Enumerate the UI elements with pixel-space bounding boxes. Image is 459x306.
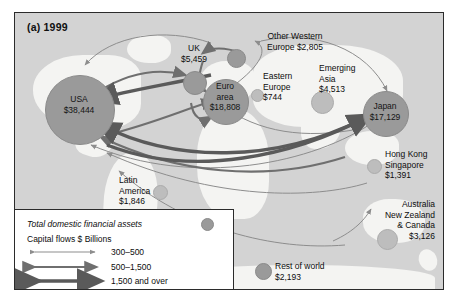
bubble-rest-of-world [255,263,272,280]
region-label-latin-america: Latin America $1,846 [119,175,173,207]
region-label-other-western-europe: Other Western Europe $2,805 [241,31,349,52]
region-label-japan: Japan $17,129 [361,101,409,122]
region-label-australia-nz-canada: Australia New Zealand & Canada $3,126 [323,199,435,241]
figure-panel: (a) 1999 [14,12,444,290]
region-label-rest-of-world: Rest of world $2,193 [275,261,365,282]
region-label-hong-kong-singapore: Hong Kong Singapore $1,391 [385,149,444,181]
region-label-emerging-asia: Emerging Asia $4,513 [319,63,381,95]
region-label-usa: USA $38,444 [45,94,113,115]
legend-row-label-2: 1,500 and over [111,276,168,286]
legend-row-label-1: 500–1,500 [111,262,151,272]
region-label-uk: UK $5,459 [155,43,233,64]
bubble-hong-kong-singapore [367,159,382,174]
legend-row-label-0: 300–500 [111,247,144,257]
region-label-eastern-europe: Eastern Europe $744 [263,71,319,103]
region-label-euro-area: Euro area $18,808 [201,81,249,113]
legend: Total domestic financial assets Capital … [15,209,234,290]
